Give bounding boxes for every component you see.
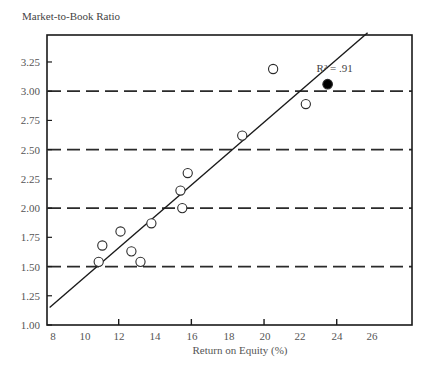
y-tick-label: 1.25 — [21, 290, 41, 302]
x-axis: 8101214161820222426 — [50, 319, 378, 342]
x-tick-label: 22 — [295, 330, 306, 342]
y-tick-label: 2.75 — [21, 114, 41, 126]
data-point — [269, 64, 278, 73]
data-point — [238, 131, 247, 140]
data-point — [94, 257, 103, 266]
data-point — [183, 168, 192, 177]
data-point — [147, 219, 156, 228]
y-tick-label: 1.75 — [21, 231, 41, 243]
scatter-chart: 1.001.251.501.752.002.252.502.753.003.25… — [0, 0, 430, 370]
x-tick-label: 14 — [150, 330, 162, 342]
x-axis-title: Return on Equity (%) — [0, 344, 430, 356]
y-tick-label: 1.50 — [21, 261, 41, 273]
x-tick-label: 24 — [332, 330, 344, 342]
x-tick-label: 18 — [224, 330, 236, 342]
y-tick-label: 2.25 — [21, 173, 41, 185]
x-tick-label: 26 — [367, 330, 379, 342]
y-tick-label: 2.50 — [21, 144, 41, 156]
data-point — [176, 186, 185, 195]
highlighted-data-point — [323, 79, 333, 89]
data-point — [116, 227, 125, 236]
x-tick-label: 10 — [80, 330, 92, 342]
data-point — [127, 247, 136, 256]
reference-lines — [48, 91, 412, 266]
y-tick-label: 3.00 — [21, 85, 41, 97]
y-tick-label: 2.00 — [21, 202, 41, 214]
data-point — [136, 257, 145, 266]
x-tick-label: 16 — [187, 330, 199, 342]
r-squared-annotation: R² = .91 — [317, 62, 353, 74]
data-point — [301, 99, 310, 108]
data-point — [98, 241, 107, 250]
y-tick-label: 3.25 — [21, 56, 41, 68]
x-tick-label: 8 — [50, 330, 56, 342]
y-tick-label: 1.00 — [21, 319, 41, 331]
x-tick-label: 12 — [114, 330, 125, 342]
plot-frame — [47, 35, 412, 325]
x-tick-label: 20 — [260, 330, 272, 342]
data-point — [178, 204, 187, 213]
